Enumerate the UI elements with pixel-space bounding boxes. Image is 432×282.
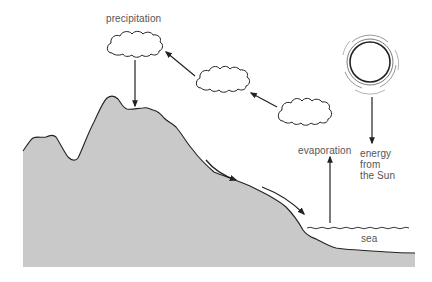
sea-label: sea (361, 233, 377, 244)
energy-label-line-2: from (360, 159, 410, 170)
cloud-1 (107, 31, 162, 57)
energy-from-sun-label: energy from the Sun (360, 148, 410, 181)
evaporation-label: evaporation (298, 145, 351, 156)
sea-surface (307, 227, 409, 229)
precipitation-label: precipitation (106, 13, 161, 24)
mountain-landmass (23, 96, 415, 267)
energy-label-line-3: the Sun (360, 170, 410, 181)
sun (343, 35, 399, 94)
cloud3-to-cloud2-arrow (251, 93, 277, 107)
cloud-2 (196, 66, 249, 92)
energy-label-line-1: energy (360, 148, 410, 159)
cloud-3 (278, 98, 331, 125)
cloud2-to-cloud1-arrow (166, 52, 195, 76)
